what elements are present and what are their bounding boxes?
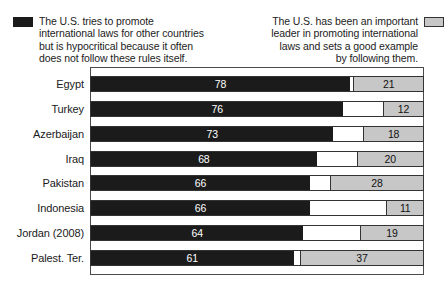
bar-segment-leader: 11: [386, 201, 423, 215]
bar-track: 7318: [90, 126, 424, 142]
bar-segment-hypocritical: 78: [91, 77, 350, 91]
bar-track: 7821: [90, 76, 424, 92]
bar-segment-empty: [310, 201, 386, 215]
bar-segment-leader: 37: [300, 251, 423, 265]
bar-segment-hypocritical: 66: [91, 176, 310, 190]
bar-segment-hypocritical: 76: [91, 102, 343, 116]
bar-segment-empty: [333, 127, 363, 141]
survey-chart: The U.S. tries to promote international …: [0, 0, 445, 292]
bar-segment-empty: [317, 152, 357, 166]
category-label: Iraq: [0, 151, 90, 167]
bar-row: Egypt7821: [0, 76, 424, 92]
bar-track: 6419: [90, 225, 424, 241]
legend-swatch-gray: [424, 17, 444, 27]
legend-leader-text: The U.S. has been an important leader in…: [271, 15, 418, 65]
category-label: Azerbaijan: [0, 126, 90, 142]
bar-segment-leader: 20: [357, 152, 423, 166]
bar-row: Pakistan6628: [0, 175, 424, 191]
bar-row: Palest. Ter.6137: [0, 250, 424, 266]
bar-segment-leader: 12: [383, 102, 423, 116]
category-label: Jordan (2008): [0, 225, 90, 241]
bar-segment-hypocritical: 68: [91, 152, 317, 166]
bar-row: Jordan (2008)6419: [0, 225, 424, 241]
bar-track: 6628: [90, 175, 424, 191]
bar-rows: Egypt7821Turkey7612Azerbaijan7318Iraq682…: [0, 67, 424, 275]
legend-leader: The U.S. has been an important leader in…: [271, 15, 444, 65]
bar-segment-leader: 18: [363, 127, 423, 141]
bar-track: 7612: [90, 101, 424, 117]
category-label: Indonesia: [0, 200, 90, 216]
bar-segment-hypocritical: 73: [91, 127, 333, 141]
category-label: Palest. Ter.: [0, 250, 90, 266]
bar-segment-leader: 19: [360, 226, 423, 240]
bar-track: 6820: [90, 151, 424, 167]
legend-hypocritical-text: The U.S. tries to promote international …: [39, 15, 204, 65]
bar-segment-leader: 21: [353, 77, 423, 91]
bar-segment-hypocritical: 64: [91, 226, 303, 240]
bar-segment-empty: [303, 226, 359, 240]
category-label: Egypt: [0, 76, 90, 92]
bar-track: 6611: [90, 200, 424, 216]
bar-segment-empty: [343, 102, 383, 116]
bar-chart: Egypt7821Turkey7612Azerbaijan7318Iraq682…: [0, 67, 424, 275]
bar-row: Azerbaijan7318: [0, 126, 424, 142]
bar-segment-leader: 28: [330, 176, 423, 190]
bar-row: Turkey7612: [0, 101, 424, 117]
category-label: Pakistan: [0, 175, 90, 191]
bar-row: Iraq6820: [0, 151, 424, 167]
legend-swatch-black: [13, 17, 33, 27]
bar-segment-empty: [310, 176, 330, 190]
bar-segment-empty: [294, 251, 301, 265]
legend-hypocritical: The U.S. tries to promote international …: [13, 15, 204, 65]
bar-segment-hypocritical: 66: [91, 201, 310, 215]
bar-segment-hypocritical: 61: [91, 251, 294, 265]
category-label: Turkey: [0, 101, 90, 117]
bar-track: 6137: [90, 250, 424, 266]
bar-row: Indonesia6611: [0, 200, 424, 216]
